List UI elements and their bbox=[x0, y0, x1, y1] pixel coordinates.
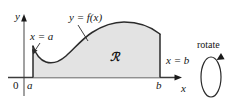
x-axis-label: x bbox=[181, 83, 186, 94]
rotation-arrow-icon bbox=[201, 53, 225, 97]
boundary-b-label: x = b bbox=[166, 55, 189, 66]
figure-container: y x 0 a b y = f(x) x = a x = b ℛ rotate bbox=[0, 0, 240, 112]
x-tick-label-a: a bbox=[27, 80, 33, 91]
x-tick-label-b: b bbox=[156, 80, 162, 91]
curve-equation-label: y = f(x) bbox=[69, 12, 102, 23]
y-axis-label: y bbox=[15, 11, 20, 22]
curve-label-leader-line bbox=[78, 25, 88, 41]
region-label: ℛ bbox=[110, 51, 120, 63]
rotate-label: rotate bbox=[197, 40, 220, 50]
boundary-a-label: x = a bbox=[30, 31, 53, 42]
diagram-canvas bbox=[0, 0, 240, 112]
origin-label: 0 bbox=[13, 80, 19, 91]
